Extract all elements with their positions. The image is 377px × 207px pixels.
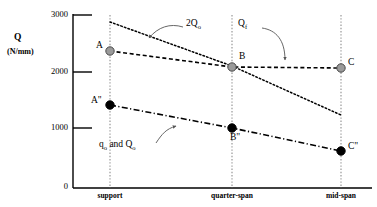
series-annotation-Qo-subscript: o: [132, 144, 135, 151]
series-line-qo-Qo: [110, 105, 341, 151]
chart-figure: 3000 2000 1000 0 Q (N/mm) support quarte…: [0, 0, 377, 207]
series-annotation-qo-Qo: qo and Qo: [99, 140, 136, 151]
series-line-Qf: [110, 51, 341, 68]
series-annotation-2Qo-subscript: o: [198, 23, 201, 30]
y-axis-tick-label-2000: 2000: [38, 67, 68, 76]
x-axis-tick-label-quarter-span: quarter-span: [192, 192, 272, 200]
data-point-A: [106, 47, 114, 55]
data-point-C: [337, 64, 345, 72]
data-point-B-double-prime: [228, 124, 236, 132]
leader-arrow-2Qo: [149, 25, 183, 38]
series-annotation-Qf-main: Q: [238, 18, 245, 28]
x-axis-tick-label-support: support: [70, 192, 150, 200]
y-axis-tick-label-0: 0: [38, 182, 68, 191]
leader-arrow-qo-Qo: [156, 126, 176, 143]
chart-plot-area: [0, 0, 377, 207]
data-point-label-B-double-prime: B": [230, 133, 240, 143]
data-point-label-C-double-prime: C": [348, 142, 358, 152]
series-annotation-Qf-subscript: f: [245, 23, 247, 30]
series-line-2Qo: [110, 22, 341, 115]
y-axis-tick-label-1000: 1000: [38, 123, 68, 132]
data-point-C-double-prime: [337, 147, 345, 155]
series-annotation-2Qo-main: 2Q: [186, 18, 198, 28]
series-annotation-qo-tail: and Q: [107, 139, 132, 149]
data-point-A-double-prime: [106, 101, 114, 109]
x-axis-tick-label-mid-span: mid-span: [301, 192, 377, 200]
data-point-label-A: A: [96, 41, 103, 51]
data-point-B: [228, 63, 236, 71]
y-axis-tick-label-3000: 3000: [38, 10, 68, 19]
data-point-label-C: C: [348, 58, 354, 68]
data-point-label-A-double-prime: A": [91, 96, 102, 106]
data-point-label-B: B: [239, 52, 245, 62]
series-annotation-2Qo: 2Qo: [186, 19, 201, 30]
series-annotation-Qf: Qf: [238, 19, 247, 30]
y-axis-title: Q: [14, 33, 21, 43]
y-axis-unit-label: (N/mm): [7, 48, 34, 56]
leader-arrow-Qf: [262, 28, 285, 60]
